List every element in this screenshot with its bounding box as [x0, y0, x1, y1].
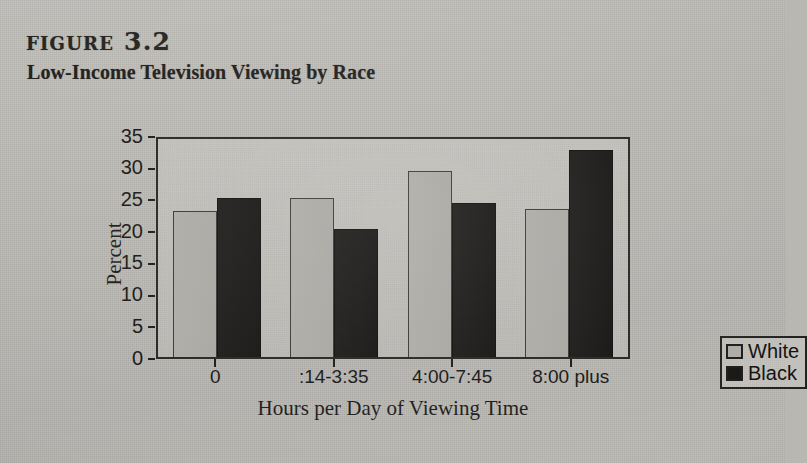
legend-item-white[interactable]: White [726, 340, 799, 362]
figure-subtitle: Low-Income Television Viewing by Race [27, 61, 375, 84]
x-axis-tick-label: :14-3:35 [299, 366, 369, 388]
bar-group [511, 139, 629, 357]
y-axis-tick-mark [148, 295, 155, 297]
y-axis-tick-mark [148, 263, 155, 265]
bar-chart: Percent 05101520253035 0:14-3:354:00-7:4… [60, 120, 760, 430]
bar-black-1[interactable] [334, 229, 378, 357]
y-axis-tick-mark [148, 326, 155, 328]
x-axis-tick-label: 0 [210, 366, 221, 388]
y-axis-tick-label: 10 [121, 283, 148, 306]
y-axis-tick-label: 15 [121, 251, 148, 274]
x-axis-tick-label: 4:00-7:45 [412, 366, 492, 388]
bar-white-3[interactable] [525, 209, 569, 357]
y-axis-tick-label: 20 [121, 220, 148, 243]
y-axis-tick-mark [148, 136, 155, 138]
x-axis-tick-labels: 0:14-3:354:00-7:458:00 plus [156, 366, 630, 392]
bar-group [393, 139, 511, 357]
y-axis-tick-label: 30 [121, 156, 148, 179]
y-axis-tick-label: 5 [132, 315, 148, 338]
legend-item-label: Black [748, 363, 797, 383]
legend-item-black[interactable]: Black [726, 362, 799, 384]
bar-group [276, 139, 394, 357]
bar-white-2[interactable] [408, 171, 452, 357]
y-axis-tick-mark [148, 168, 155, 170]
y-axis-tick-label: 0 [132, 347, 148, 370]
chart-legend: WhiteBlack [720, 336, 807, 389]
bar-white-1[interactable] [290, 198, 334, 357]
plot-area [156, 137, 630, 359]
y-axis-tick-labels: 05101520253035 [104, 137, 148, 359]
y-axis-tick-mark [148, 358, 155, 360]
x-axis-tick-label: 8:00 plus [532, 366, 609, 388]
x-axis-title: Hours per Day of Viewing Time [156, 396, 630, 421]
legend-item-label: White [748, 341, 799, 361]
bar-black-0[interactable] [217, 198, 261, 357]
y-axis-tick-label: 25 [121, 188, 148, 211]
y-axis-tick-label: 35 [121, 125, 148, 148]
y-axis-tick-mark [148, 231, 155, 233]
legend-swatch-black [726, 366, 743, 381]
figure-label: figure 3.2 [26, 27, 171, 56]
bar-white-0[interactable] [173, 211, 217, 357]
bar-black-2[interactable] [452, 203, 496, 357]
legend-swatch-white [726, 344, 743, 359]
bar-black-3[interactable] [569, 150, 613, 357]
bar-group [158, 139, 276, 357]
y-axis-tick-mark [148, 199, 155, 201]
